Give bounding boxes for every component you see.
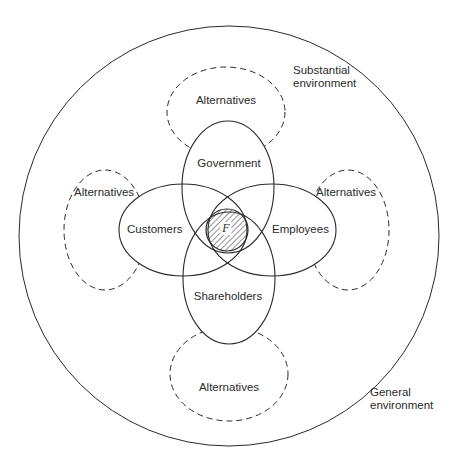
alternatives-left-label: Alternatives <box>74 186 134 199</box>
shareholders-label: Shareholders <box>194 290 262 303</box>
employees-label: Employees <box>272 223 329 236</box>
alternatives-bottom-label: Alternatives <box>199 381 259 394</box>
general-environment-label: Generalenvironment <box>370 386 450 412</box>
alternatives-right-label: Alternatives <box>316 186 376 199</box>
alternatives-top-label: Alternatives <box>196 94 256 107</box>
firm-label: F <box>220 222 231 235</box>
government-label: Government <box>197 157 260 170</box>
customers-label: Customers <box>127 223 183 236</box>
substantial-environment-label: Substantialenvironment <box>293 64 356 90</box>
